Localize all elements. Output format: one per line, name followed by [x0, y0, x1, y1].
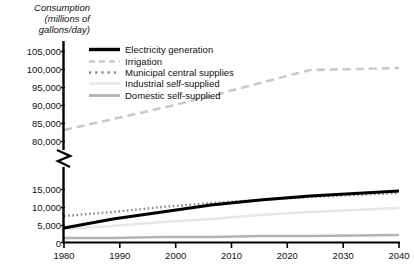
x-tick-label: 2020 [270, 251, 304, 261]
legend-item-domestic-self-supplied: Domestic self-supplied [88, 90, 234, 101]
legend-item-electricity-generation: Electricity generation [88, 44, 234, 55]
x-tick-label: 2000 [159, 251, 193, 261]
series-line-domestic-self-supplied [64, 235, 399, 238]
legend-label: Industrial self-supplied [125, 78, 220, 89]
legend-swatch-dotted-icon [88, 67, 121, 78]
series-line-municipal-central-supplies [64, 193, 399, 216]
legend-item-industrial-self-supplied: Industrial self-supplied [88, 78, 234, 89]
x-tick-label: 2030 [326, 251, 360, 261]
legend-swatch-dashed-icon [88, 56, 121, 67]
legend-item-municipal-central-supplies: Municipal central supplies [88, 67, 234, 78]
legend-label: Electricity generation [125, 44, 213, 55]
x-tick-label: 2040 [382, 251, 414, 261]
legend-swatch-solid-medium-icon [88, 90, 121, 101]
legend-swatch-solid-thick-icon [88, 44, 121, 55]
legend-swatch-solid-thin-icon [88, 78, 121, 89]
legend-item-irrigation: Irrigation [88, 55, 234, 66]
x-tick-label: 2010 [215, 251, 249, 261]
legend-label: Domestic self-supplied [125, 90, 221, 101]
axis-break-marker [57, 150, 70, 167]
legend-label: Municipal central supplies [125, 67, 234, 78]
chart-legend: Electricity generation Irrigation Munici… [88, 44, 234, 101]
legend-label: Irrigation [125, 56, 162, 67]
x-tick-label: 1990 [103, 251, 137, 261]
x-tick-label: 1980 [47, 251, 81, 261]
